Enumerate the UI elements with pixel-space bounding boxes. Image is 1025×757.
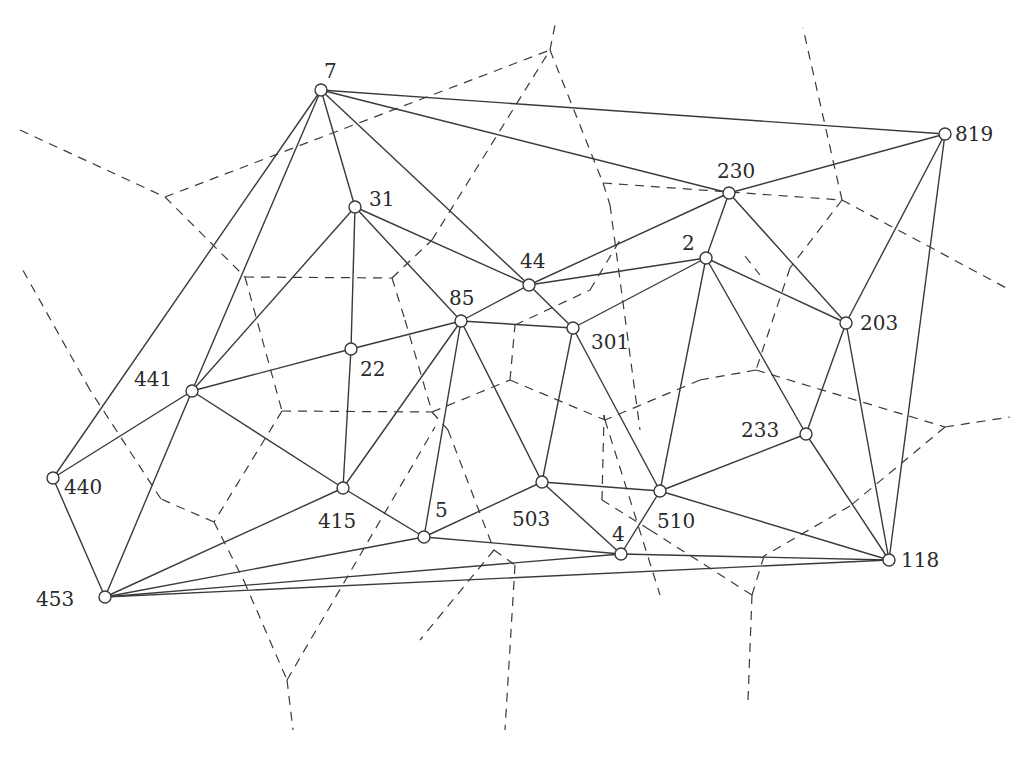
voronoi-edge (245, 277, 392, 278)
edge-31-22 (351, 207, 355, 349)
node-label-44: 44 (520, 249, 545, 273)
edge-441-415 (192, 391, 343, 488)
voronoi-edge (590, 240, 620, 290)
node-label-118: 118 (901, 548, 939, 572)
edge-233-118 (806, 434, 889, 560)
node-label-7: 7 (324, 59, 337, 83)
edge-819-203 (846, 134, 945, 323)
node-415 (337, 482, 349, 494)
edge-85-503 (461, 321, 542, 482)
node-233 (800, 428, 812, 440)
node-label-2: 2 (682, 231, 695, 255)
voronoi-edge (700, 370, 756, 380)
edge-44-301 (529, 285, 573, 328)
voronoi-edge (748, 595, 752, 700)
voronoi-edge (282, 411, 432, 412)
node-31 (349, 201, 361, 213)
node-510 (654, 485, 666, 497)
node-label-441: 441 (134, 367, 172, 391)
voronoi-edge (764, 506, 850, 556)
voronoi-edge (287, 427, 435, 680)
voronoi-edge (20, 130, 165, 197)
delaunay-voronoi-diagram: 7819230312448530120322441233440415503510… (0, 0, 1025, 757)
edge-7-230 (321, 90, 729, 193)
node-label-453: 453 (36, 587, 74, 611)
edge-31-85 (355, 207, 461, 321)
edge-7-44 (321, 90, 529, 285)
node-label-503: 503 (512, 507, 550, 531)
node-label-4: 4 (612, 522, 625, 546)
edge-4-453 (105, 554, 621, 597)
node-5 (418, 531, 430, 543)
voronoi-edge (550, 25, 555, 50)
node-labels: 7819230312448530120322441233440415503510… (36, 59, 993, 611)
voronoi-edge (603, 183, 610, 205)
edge-85-301 (461, 321, 573, 328)
node-819 (939, 128, 951, 140)
voronoi-edge (420, 550, 494, 640)
edge-230-44 (529, 193, 729, 285)
node-label-5: 5 (435, 498, 448, 522)
node-7 (315, 84, 327, 96)
node-44 (523, 279, 535, 291)
node-label-85: 85 (449, 286, 474, 310)
edge-203-118 (846, 323, 889, 560)
edge-5-453 (105, 537, 424, 597)
edge-2-233 (706, 258, 806, 434)
node-label-22: 22 (360, 357, 385, 381)
node-503 (536, 476, 548, 488)
voronoi-edge (803, 28, 842, 200)
edge-441-453 (105, 391, 192, 597)
node-label-415: 415 (318, 509, 356, 533)
voronoi-edge (650, 530, 752, 595)
node-4 (615, 548, 627, 560)
edge-31-441 (192, 207, 355, 391)
node-440 (47, 472, 59, 484)
node-301 (567, 322, 579, 334)
edge-203-233 (806, 323, 846, 434)
node-label-230: 230 (717, 159, 755, 183)
voronoi-edge (20, 265, 90, 390)
voronoi-edge (245, 277, 282, 411)
edge-22-415 (343, 349, 351, 488)
edge-2-510 (660, 258, 706, 491)
node-453 (99, 591, 111, 603)
node-label-510: 510 (657, 509, 695, 533)
node-label-233: 233 (741, 418, 779, 442)
edge-7-441 (192, 90, 321, 391)
node-label-31: 31 (369, 187, 394, 211)
edge-22-441 (192, 349, 351, 391)
node-2 (700, 252, 712, 264)
voronoi-edge (756, 370, 945, 427)
node-85 (455, 315, 467, 327)
voronoi-edge (505, 565, 515, 730)
voronoi-edge (605, 420, 660, 595)
edge-118-453 (105, 560, 889, 597)
node-441 (186, 385, 198, 397)
node-label-203: 203 (860, 311, 898, 335)
voronoi-edge (244, 581, 287, 680)
edge-5-4 (424, 537, 621, 554)
voronoi-edge (790, 200, 842, 268)
node-label-440: 440 (64, 475, 102, 499)
edge-819-230 (729, 134, 945, 193)
voronoi-edge (165, 197, 245, 277)
edge-7-440 (53, 90, 321, 478)
node-230 (723, 187, 735, 199)
voronoi-edge (287, 680, 293, 730)
edge-2-203 (706, 258, 846, 323)
voronoi-edge (392, 240, 432, 278)
node-label-819: 819 (955, 122, 993, 146)
edge-503-510 (542, 482, 660, 491)
edge-510-233 (660, 434, 806, 491)
edge-441-440 (53, 391, 192, 478)
node-label-301: 301 (591, 330, 629, 354)
voronoi-edge (945, 417, 1010, 427)
edge-7-819 (321, 90, 945, 134)
triangulation-edges (53, 90, 945, 597)
voronoi-edge (510, 380, 605, 420)
graph-nodes (47, 84, 951, 603)
voronoi-edge (510, 325, 515, 380)
voronoi-edge (602, 500, 650, 530)
voronoi-edge (448, 430, 494, 550)
